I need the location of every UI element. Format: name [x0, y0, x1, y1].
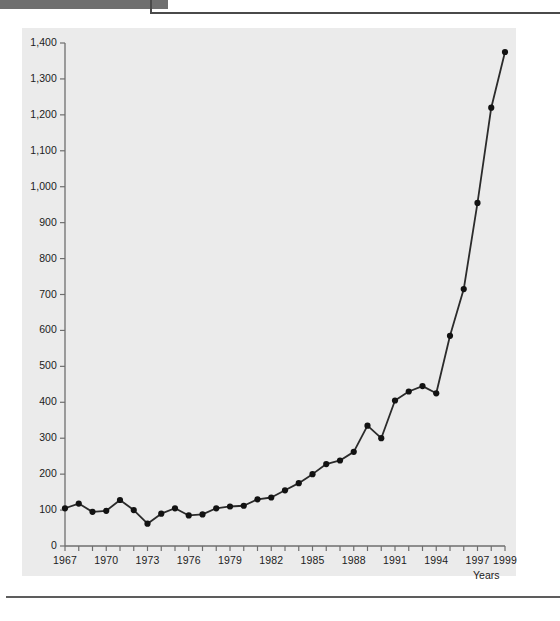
data-point-marker	[502, 49, 508, 55]
y-axis-tick-label: 1,300	[30, 72, 57, 84]
x-axis-tick-label: 1976	[167, 554, 211, 566]
y-axis-tick-label: 1,100	[30, 144, 57, 156]
x-axis-tick-label: 1973	[126, 554, 170, 566]
page-frame-border	[150, 0, 560, 14]
y-axis-tick-label: 1,400	[30, 36, 57, 48]
data-point-marker	[296, 480, 302, 486]
data-point-marker	[241, 503, 247, 509]
x-axis-tick-label: 1982	[249, 554, 293, 566]
data-point-marker	[474, 200, 480, 206]
x-axis-tick-label: 1988	[332, 554, 376, 566]
x-axis-title: Years	[473, 569, 499, 581]
data-point-marker	[76, 501, 82, 507]
y-axis-tick-label: 100	[39, 503, 57, 515]
data-point-marker	[337, 457, 343, 463]
x-axis-tick-label: 1985	[291, 554, 335, 566]
data-point-marker	[186, 512, 192, 518]
data-point-marker	[158, 511, 164, 517]
data-point-marker	[406, 388, 412, 394]
data-point-marker	[364, 423, 370, 429]
x-axis-tick-label: 1967	[43, 554, 87, 566]
data-point-marker	[199, 511, 205, 517]
data-series-line	[65, 52, 505, 524]
data-point-marker	[103, 508, 109, 514]
data-point-marker	[309, 471, 315, 477]
data-point-marker	[282, 487, 288, 493]
page-header-bar	[0, 0, 168, 9]
data-point-marker	[213, 505, 219, 511]
data-point-marker	[144, 521, 150, 527]
data-point-marker	[392, 397, 398, 403]
x-axis-tick-label: 1994	[414, 554, 458, 566]
y-axis-tick-label: 400	[39, 395, 57, 407]
y-axis-tick-label: 0	[51, 539, 57, 551]
y-axis-tick-label: 900	[39, 216, 57, 228]
data-point-marker	[268, 494, 274, 500]
y-axis-tick-label: 1,000	[30, 180, 57, 192]
data-point-marker	[378, 435, 384, 441]
data-point-marker	[117, 497, 123, 503]
data-point-marker	[89, 509, 95, 515]
y-axis-tick-label: 800	[39, 252, 57, 264]
y-axis-tick-label: 700	[39, 288, 57, 300]
data-point-marker	[62, 505, 68, 511]
data-point-marker	[433, 390, 439, 396]
data-point-marker	[461, 286, 467, 292]
y-axis-tick-label: 600	[39, 323, 57, 335]
y-axis-tick-label: 500	[39, 359, 57, 371]
y-axis-tick-label: 1,200	[30, 108, 57, 120]
data-point-marker	[131, 507, 137, 513]
data-point-marker	[227, 503, 233, 509]
data-point-marker	[351, 449, 357, 455]
data-point-marker	[488, 105, 494, 111]
data-point-marker	[419, 383, 425, 389]
y-axis-tick-label: 200	[39, 467, 57, 479]
chart-figure: 01002003004005006007008009001,0001,1001,…	[22, 28, 516, 576]
y-axis-tick-label: 300	[39, 431, 57, 443]
x-axis-tick-label: 1991	[373, 554, 417, 566]
data-point-marker	[254, 496, 260, 502]
data-point-marker	[323, 461, 329, 467]
x-axis-tick-label: 1970	[84, 554, 128, 566]
data-point-marker	[447, 333, 453, 339]
page-footer-rule	[6, 596, 560, 598]
line-chart-plot	[22, 28, 516, 576]
x-axis-tick-label: 1979	[208, 554, 252, 566]
x-axis-tick-label: 1999	[483, 554, 527, 566]
data-point-marker	[172, 505, 178, 511]
